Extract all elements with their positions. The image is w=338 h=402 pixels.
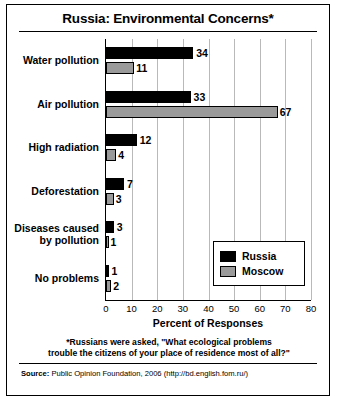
x-tick-label: 0 (103, 303, 108, 314)
bar-russia: 1 (106, 265, 109, 277)
bar-moscow: 11 (106, 62, 134, 74)
category-label-line: by pollution (14, 235, 99, 247)
category-label-line: Air pollution (37, 99, 99, 111)
bar-value-label: 67 (280, 106, 292, 118)
category-label-line: Deforestation (31, 186, 99, 198)
bar-value-label: 34 (196, 47, 208, 59)
category-label: Deforestation (31, 186, 106, 198)
bar-value-label: 4 (118, 149, 124, 161)
category-label: High radiation (28, 142, 106, 154)
x-tick-label: 30 (178, 303, 189, 314)
footnote-line-1: *Russians were asked, "What ecological p… (21, 337, 317, 348)
legend-label-russia: Russia (242, 250, 276, 262)
title-divider (19, 31, 317, 32)
legend-label-moscow: Moscow (242, 265, 283, 277)
source-divider (19, 363, 317, 364)
x-tick-label: 10 (126, 303, 137, 314)
chart-legend: Russia Moscow (213, 241, 305, 286)
source-label: Source: (21, 369, 49, 378)
category-label-line: No problems (35, 273, 99, 285)
grid-line (157, 39, 158, 300)
source-text: Public Opinion Foundation, 2006 (http://… (51, 369, 248, 378)
grid-line (183, 39, 184, 300)
bar-value-label: 7 (127, 178, 133, 190)
x-tick-label: 50 (229, 303, 240, 314)
footnote: *Russians were asked, "What ecological p… (21, 337, 317, 359)
grid-line (311, 39, 312, 300)
chart-title: Russia: Environmental Concerns* (7, 11, 329, 26)
x-axis-label: Percent of Responses (105, 317, 311, 329)
bar-russia: 33 (106, 91, 191, 103)
bar-value-label: 3 (117, 221, 123, 233)
bar-russia: 12 (106, 134, 137, 146)
source-note: Source: Public Opinion Foundation, 2006 … (21, 369, 317, 379)
x-tick-label: 60 (254, 303, 265, 314)
bar-value-label: 33 (194, 91, 206, 103)
x-tick-label: 80 (306, 303, 317, 314)
x-tick-label: 40 (203, 303, 214, 314)
bar-russia: 7 (106, 178, 124, 190)
category-label: Air pollution (37, 99, 106, 111)
bar-value-label: 3 (116, 193, 122, 205)
bar-value-label: 12 (140, 134, 152, 146)
category-label: No problems (35, 273, 106, 285)
bar-moscow: 4 (106, 149, 116, 161)
legend-item-russia: Russia (220, 250, 298, 262)
bar-moscow: 3 (106, 193, 114, 205)
bar-value-label: 1 (112, 265, 118, 277)
bar-russia: 3 (106, 221, 114, 233)
grid-line (132, 39, 133, 300)
x-tick-label: 70 (280, 303, 291, 314)
footnote-line-2: trouble the citizens of your place of re… (21, 348, 317, 359)
bar-moscow: 1 (106, 236, 109, 248)
category-label: Diseases causedby pollution (14, 223, 106, 246)
category-label-line: Water pollution (23, 55, 99, 67)
legend-swatch-moscow (220, 266, 236, 277)
bar-value-label: 2 (113, 280, 119, 292)
bar-russia: 34 (106, 47, 193, 59)
legend-item-moscow: Moscow (220, 265, 298, 277)
chart-frame: Russia: Environmental Concerns* 01020304… (6, 4, 330, 396)
bar-moscow: 67 (106, 106, 278, 118)
category-label-line: High radiation (28, 142, 99, 154)
bar-value-label: 11 (136, 62, 147, 74)
bar-moscow: 2 (106, 280, 111, 292)
x-tick-label: 20 (152, 303, 163, 314)
category-label: Water pollution (23, 55, 106, 67)
legend-swatch-russia (220, 251, 236, 262)
grid-line (209, 39, 210, 300)
bar-value-label: 1 (111, 236, 117, 248)
